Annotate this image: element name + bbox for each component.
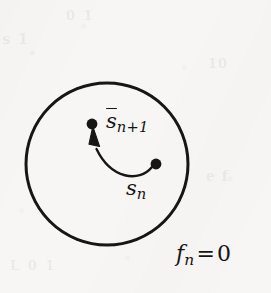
label-s-n-plus-1: sn+1 [106, 109, 149, 135]
label-s-n-plus-1-base: s [106, 109, 117, 133]
state-update-arrowhead [89, 127, 100, 147]
point-s-n [151, 159, 162, 170]
equals-sign: = [194, 241, 217, 266]
figure-root: s 1 0 1 10 e f L 0 1 sn+1 sn [0, 0, 271, 293]
constraint-function-symbol: f [176, 241, 184, 266]
constraint-function-subscript: n [184, 251, 194, 269]
point-s-n-plus-1 [87, 119, 98, 130]
label-s-n-plus-1-subscript: n+1 [117, 118, 149, 135]
label-s-n-subscript: n [137, 185, 147, 202]
label-s-n: sn [126, 176, 146, 202]
label-constraint-equation: fn = 0 [176, 241, 231, 269]
state-update-arrow-shaft [97, 149, 153, 176]
label-s-n-base: s [126, 176, 137, 200]
constraint-value: 0 [217, 241, 231, 266]
